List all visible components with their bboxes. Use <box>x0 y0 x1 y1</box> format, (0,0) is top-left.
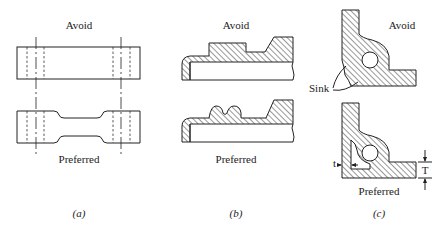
panel-b-preferred-label: Preferred <box>216 153 257 165</box>
panel-a-caption: (a) <box>73 207 86 220</box>
hole-icon <box>362 52 378 68</box>
preferred-relieved-plate <box>17 111 140 143</box>
panel-c-preferred-label: Preferred <box>359 185 400 197</box>
avoid-rect-boss-section <box>182 37 293 80</box>
panel-c-caption: (c) <box>373 207 386 220</box>
T-label: T <box>422 164 429 176</box>
panel-c: Avoid Sink t T Preferred (c) <box>309 10 432 220</box>
design-guideline-figure: Avoid Preferred (a) Avoid Preferred (b) <box>0 0 440 231</box>
panel-b: Avoid Preferred (b) <box>182 19 294 220</box>
sink-label: Sink <box>309 82 330 94</box>
panel-b-avoid-label: Avoid <box>223 19 250 31</box>
panel-a-avoid-label: Avoid <box>66 19 93 31</box>
panel-c-avoid-label: Avoid <box>389 19 416 31</box>
t-label: t <box>333 157 336 169</box>
hole-icon <box>362 145 378 161</box>
panel-b-caption: (b) <box>230 207 243 220</box>
panel-a-preferred-label: Preferred <box>59 153 100 165</box>
preferred-rounded-ribs-section <box>182 100 293 142</box>
avoid-flat-plate <box>17 47 140 79</box>
panel-a: Avoid Preferred (a) <box>17 19 140 220</box>
